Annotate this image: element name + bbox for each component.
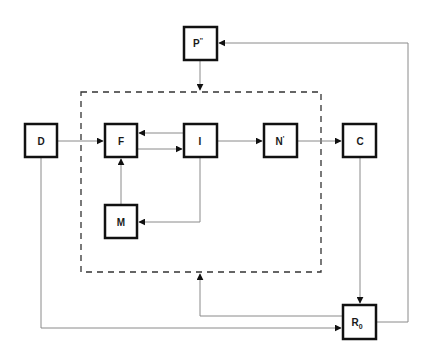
edges [41, 43, 408, 328]
edge-d-to-r [41, 157, 341, 328]
node-n-label: N [276, 136, 283, 147]
edge-i-to-m [139, 157, 200, 222]
node-i: I [184, 124, 217, 157]
flow-diagram: P'' D F I N' C M R0 [0, 0, 428, 362]
node-c: C [343, 124, 376, 157]
dashed-boundary [81, 92, 321, 272]
edge-r-to-p [219, 43, 408, 322]
node-f: F [105, 124, 137, 157]
node-r: R0 [343, 305, 376, 339]
node-m-label: M [117, 217, 125, 228]
node-n: N' [264, 124, 297, 157]
node-p-superscript: '' [200, 37, 204, 44]
node-c-label: C [356, 136, 363, 147]
node-f-label: F [118, 136, 124, 147]
node-r-subscript: 0 [359, 323, 363, 330]
node-m: M [105, 205, 137, 238]
edge-r-to-group [200, 274, 343, 316]
node-i-label: I [199, 136, 202, 147]
node-p: P'' [184, 27, 217, 60]
node-d: D [25, 124, 57, 157]
node-d-label: D [37, 136, 44, 147]
